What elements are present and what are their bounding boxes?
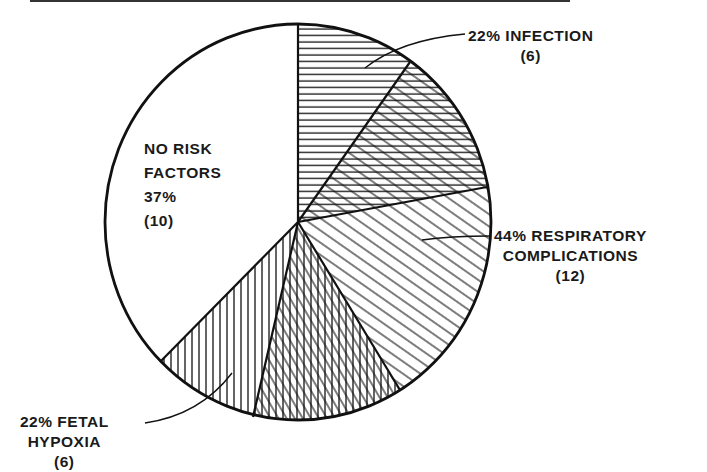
label-no-risk: NO RISK FACTORS 37% (10) bbox=[144, 137, 221, 233]
label-norisk-title: NO RISK bbox=[144, 137, 221, 161]
label-respiratory-title: 44% RESPIRATORY bbox=[494, 226, 647, 246]
label-respiratory-count: (12) bbox=[494, 266, 647, 286]
label-fetal-title2: HYPOXIA bbox=[20, 432, 109, 452]
label-norisk-count: (10) bbox=[144, 209, 221, 233]
label-fetal-hypoxia: 22% FETAL HYPOXIA (6) bbox=[20, 412, 109, 472]
label-fetal-title: 22% FETAL bbox=[20, 412, 109, 432]
label-fetal-count: (6) bbox=[20, 452, 109, 472]
label-respiratory: 44% RESPIRATORY COMPLICATIONS (12) bbox=[494, 226, 647, 286]
label-respiratory-title2: COMPLICATIONS bbox=[494, 246, 647, 266]
label-infection-count: (6) bbox=[468, 46, 593, 66]
label-infection: 22% INFECTION (6) bbox=[468, 26, 593, 66]
label-infection-title: 22% INFECTION bbox=[468, 26, 593, 46]
label-norisk-percent: 37% bbox=[144, 185, 221, 209]
label-norisk-title2: FACTORS bbox=[144, 161, 221, 185]
